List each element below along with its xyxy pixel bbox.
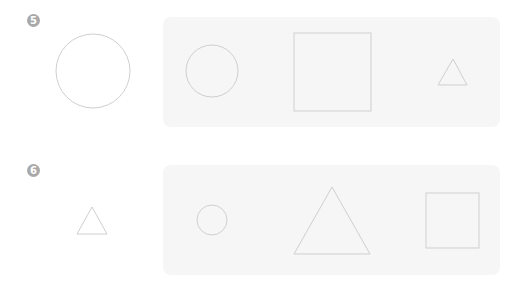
option-square-icon[interactable] xyxy=(294,33,371,111)
option-triangle-icon[interactable] xyxy=(438,59,467,85)
shapes-layer xyxy=(0,0,519,291)
option-square-icon[interactable] xyxy=(426,193,479,248)
option-triangle-icon[interactable] xyxy=(294,187,370,254)
reference-circle-icon xyxy=(56,34,130,108)
option-circle-icon[interactable] xyxy=(186,45,238,97)
reference-triangle-icon xyxy=(77,207,107,234)
option-circle-icon[interactable] xyxy=(197,205,227,235)
